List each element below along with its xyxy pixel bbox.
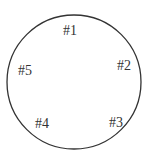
position-label-3: #3	[109, 115, 123, 130]
circle-diagram: #1 #2 #3 #4 #5	[0, 0, 149, 158]
position-label-4: #4	[35, 116, 49, 131]
position-label-5: #5	[18, 63, 32, 78]
position-label-2: #2	[117, 58, 131, 73]
diagram-canvas: #1 #2 #3 #4 #5	[0, 0, 149, 158]
position-label-1: #1	[63, 23, 77, 38]
